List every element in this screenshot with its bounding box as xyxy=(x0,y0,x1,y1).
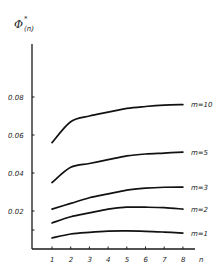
y-tick-label: 0.04 xyxy=(8,170,24,178)
y-tick-label: 0.06 xyxy=(8,132,24,140)
series-m-10: m=10 xyxy=(52,101,213,143)
y-ticks: 0.020.040.060.08 xyxy=(8,94,35,231)
x-tick-label: 2 xyxy=(69,256,74,264)
y-axis-title-main: Φ xyxy=(14,18,23,31)
x-tick-label: 3 xyxy=(87,256,91,264)
y-tick-label: 0.08 xyxy=(8,94,24,102)
x-tick-label: 5 xyxy=(125,256,130,264)
y-axis-title-sub: (n) xyxy=(24,25,34,33)
series-m-2: m=2 xyxy=(52,206,209,223)
curve-m-10 xyxy=(52,105,183,143)
curve-m-5 xyxy=(52,152,183,182)
curve-m-1 xyxy=(52,231,183,238)
series-label-m-10: m=10 xyxy=(191,101,213,109)
series-m-3: m=3 xyxy=(52,184,208,210)
curve-m-2 xyxy=(52,207,183,223)
series-label-m-3: m=3 xyxy=(191,184,208,192)
chart: Φ * (n) 0.020.040.060.08 12345678 n m=10… xyxy=(0,0,217,277)
y-tick-label: 0.02 xyxy=(8,208,24,216)
x-tick-label: 7 xyxy=(162,256,167,264)
series-label-m-1: m=1 xyxy=(191,230,208,238)
x-axis-title: n xyxy=(199,256,203,264)
x-tick-label: 8 xyxy=(181,256,186,264)
series-group: m=10m=5m=3m=2m=1 xyxy=(52,101,213,238)
series-label-m-2: m=2 xyxy=(191,206,209,214)
y-axis-title: Φ * (n) xyxy=(14,15,34,33)
y-axis-title-sup: * xyxy=(24,15,28,23)
series-label-m-5: m=5 xyxy=(191,149,209,157)
x-tick-label: 4 xyxy=(106,256,110,264)
series-m-1: m=1 xyxy=(52,230,208,238)
curve-m-3 xyxy=(52,187,183,209)
series-m-5: m=5 xyxy=(52,149,209,183)
x-tick-label: 1 xyxy=(50,256,54,264)
x-tick-label: 6 xyxy=(144,256,149,264)
